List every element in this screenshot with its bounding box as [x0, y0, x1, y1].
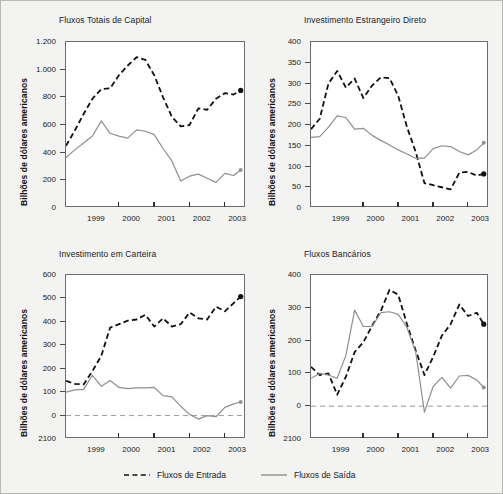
x-axis-tick-mark — [432, 202, 433, 207]
y-axis-tick-mark — [60, 321, 65, 322]
y-axis-ticks: 21000100200300400500600 — [29, 274, 65, 438]
y-axis-tick-label: 800 — [43, 92, 56, 101]
y-axis-tick-label: 350 — [288, 57, 301, 66]
y-axis-tick-label: 0 — [52, 410, 56, 419]
x-axis-tick-label: 1999 — [332, 445, 350, 454]
series-endpoint-marker — [238, 294, 243, 299]
y-axis-tick-mark — [60, 152, 65, 153]
y-axis-tick-mark — [60, 344, 65, 345]
series-line — [66, 375, 241, 419]
y-axis-tick-mark — [60, 391, 65, 392]
x-axis-tick-mark — [189, 433, 190, 438]
x-axis-tick-mark — [397, 433, 398, 438]
legend-entry-outflows: Fluxos de Saída — [261, 470, 355, 480]
y-axis-tick-label: 300 — [43, 340, 56, 349]
y-axis-tick-label: 400 — [288, 37, 301, 46]
y-axis-tick-label: 0 — [297, 203, 301, 212]
x-axis-tick-label: 2003 — [228, 445, 246, 454]
x-axis-tick-label: 2000 — [122, 214, 140, 223]
x-axis-tick-mark — [153, 433, 154, 438]
x-axis-tick-label: 2001 — [158, 445, 176, 454]
y-axis-tick-label: 200 — [43, 175, 56, 184]
y-axis-tick-label: 100 — [288, 368, 301, 377]
series-lines — [311, 42, 488, 207]
x-axis-tick-label: 2001 — [401, 445, 419, 454]
x-axis-tick-label: 2002 — [193, 445, 211, 454]
x-axis-tick-label: 2003 — [228, 214, 246, 223]
y-axis-tick-mark — [60, 368, 65, 369]
x-axis-tick-label: 2002 — [436, 214, 454, 223]
x-axis-tick-mark — [118, 433, 119, 438]
chart-panel-foreign-direct-investment: Investimento Estrangeiro Direto Bilhões … — [253, 1, 503, 241]
y-axis-tick-mark — [305, 62, 310, 63]
chart-panel-portfolio-investment: Investimento em Carteira Bilhões de dóla… — [1, 237, 259, 465]
y-axis-tick-mark — [305, 83, 310, 84]
chart-axes: 02004006008001.0001.200 1999200020012002… — [1, 1, 259, 241]
x-axis-tick-label: 1999 — [87, 214, 105, 223]
x-axis-ticks: 19992000200120022003 — [310, 438, 488, 460]
x-axis-tick-label: 2003 — [471, 445, 489, 454]
x-axis-tick-mark — [397, 202, 398, 207]
y-axis-tick-mark — [305, 405, 310, 406]
y-axis-tick-label: 200 — [43, 363, 56, 372]
x-axis-tick-mark — [467, 433, 468, 438]
y-axis-tick-label: 50 — [292, 182, 301, 191]
x-axis-ticks: 19992000200120022003 — [65, 438, 245, 460]
x-axis-tick-mark — [362, 433, 363, 438]
series-endpoint-marker — [481, 322, 486, 327]
y-axis-tick-mark — [60, 297, 65, 298]
plot-area — [65, 274, 245, 438]
series-lines — [311, 275, 488, 438]
chart-axes: 050100150200250300350400 199920002001200… — [253, 1, 503, 241]
x-axis-ticks: 19992000200120022003 — [65, 207, 245, 229]
x-axis-tick-label: 1999 — [332, 214, 350, 223]
legend-label-outflows: Fluxos de Saída — [294, 470, 355, 480]
y-axis-tick-mark — [60, 96, 65, 97]
series-endpoint-marker — [239, 168, 243, 172]
y-axis-tick-label: 200 — [288, 120, 301, 129]
x-axis-tick-mark — [432, 433, 433, 438]
series-endpoint-marker — [239, 400, 243, 404]
series-endpoint-marker — [482, 141, 486, 145]
y-axis-tick-mark — [305, 124, 310, 125]
series-lines — [66, 42, 245, 207]
y-axis-tick-label: 600 — [43, 270, 56, 279]
x-axis-tick-mark — [153, 202, 154, 207]
series-endpoint-marker — [238, 88, 243, 93]
y-axis-tick-mark — [305, 186, 310, 187]
x-axis-tick-label: 2003 — [471, 214, 489, 223]
x-axis-tick-label: 2000 — [367, 445, 385, 454]
y-axis-tick-label: 1.000 — [36, 64, 56, 73]
x-axis-tick-label: 1999 — [87, 445, 105, 454]
y-axis-tick-mark — [305, 372, 310, 373]
y-axis-tick-label: 300 — [288, 78, 301, 87]
x-axis-tick-label: 2002 — [436, 445, 454, 454]
legend-label-inflows: Fluxos de Entrada — [157, 470, 226, 480]
x-axis-tick-label: 2001 — [158, 214, 176, 223]
x-axis-tick-mark — [189, 202, 190, 207]
x-axis-tick-mark — [224, 433, 225, 438]
y-axis-tick-label: 100 — [43, 387, 56, 396]
series-line — [311, 116, 484, 158]
y-axis-tick-label: 2100 — [283, 434, 301, 443]
y-axis-tick-label: 0 — [52, 203, 56, 212]
series-line — [66, 57, 241, 146]
chart-panel-banking-flows: Fluxos Bancários Bilhões de dólares amer… — [253, 237, 503, 465]
x-axis-tick-label: 2000 — [367, 214, 385, 223]
y-axis-tick-label: 200 — [288, 335, 301, 344]
series-endpoint-marker — [481, 171, 486, 176]
x-axis-tick-label: 2000 — [122, 445, 140, 454]
y-axis-tick-mark — [60, 179, 65, 180]
x-axis-tick-mark — [224, 202, 225, 207]
series-line — [66, 297, 241, 385]
x-axis-tick-label: 2001 — [401, 214, 419, 223]
x-axis-tick-mark — [467, 202, 468, 207]
y-axis-tick-label: 150 — [288, 140, 301, 149]
series-endpoint-marker — [482, 386, 486, 390]
x-axis-tick-mark — [118, 202, 119, 207]
plot-area — [65, 41, 245, 207]
plot-area — [310, 274, 488, 438]
legend-entry-inflows: Fluxos de Entrada — [124, 470, 226, 480]
chart-panel-total-capital-flows: Fluxos Totais de Capital Bilhões de dóla… — [1, 1, 259, 241]
y-axis-tick-label: 600 — [43, 120, 56, 129]
